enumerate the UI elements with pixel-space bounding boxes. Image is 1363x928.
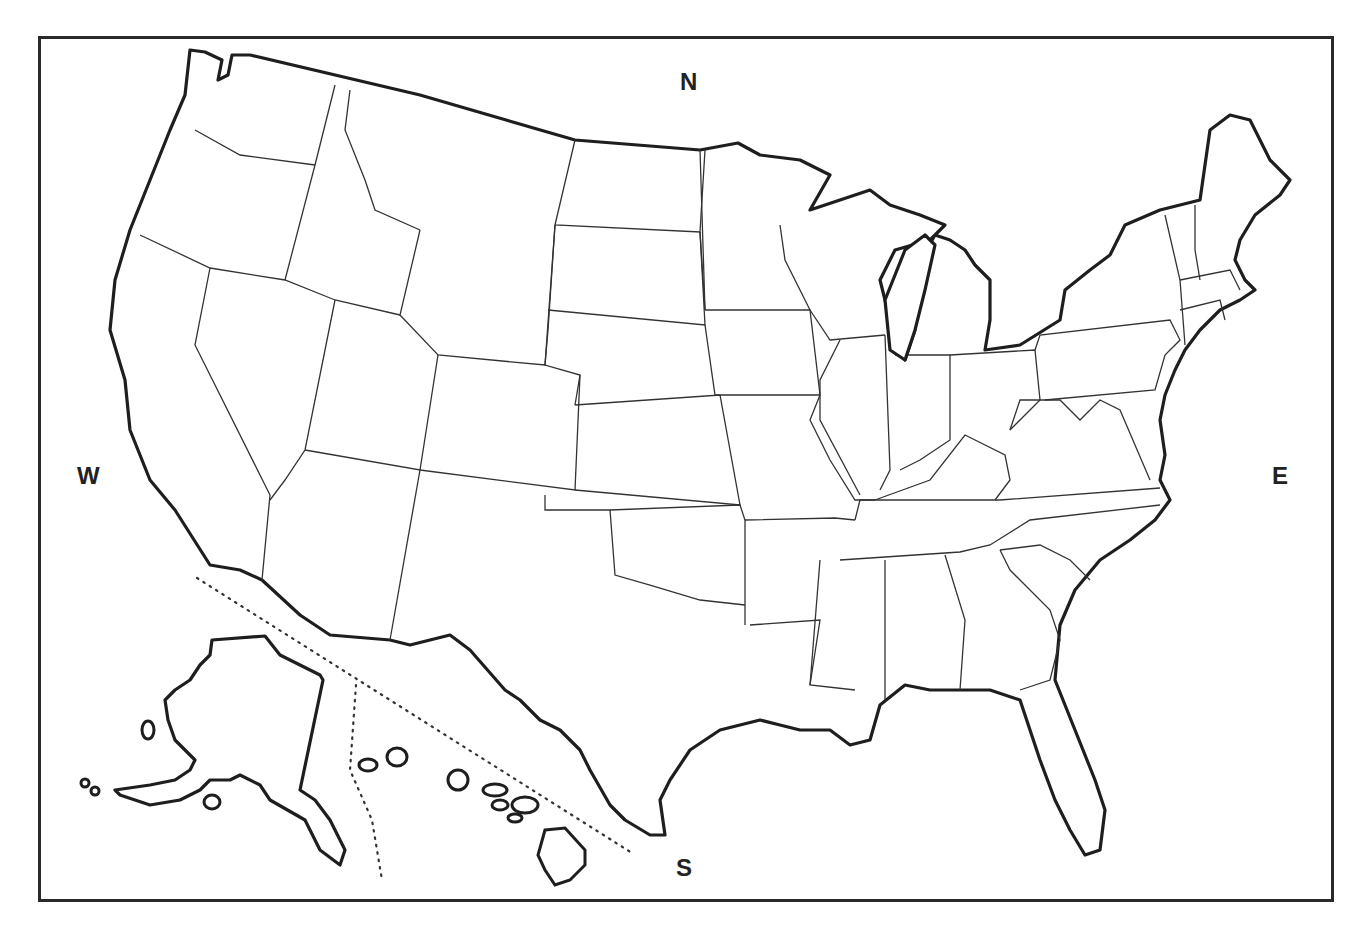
island [142, 721, 154, 739]
compass-east: E [1272, 462, 1288, 490]
inset-separator [350, 685, 382, 880]
compass-north: N [680, 68, 697, 96]
us-outline-map [0, 0, 1363, 928]
island [81, 779, 89, 787]
compass-west: W [77, 462, 100, 490]
island [91, 787, 99, 795]
alaska-inset [115, 636, 345, 865]
compass-south: S [676, 854, 692, 882]
island [204, 795, 220, 809]
hawaii-inset [359, 748, 585, 885]
